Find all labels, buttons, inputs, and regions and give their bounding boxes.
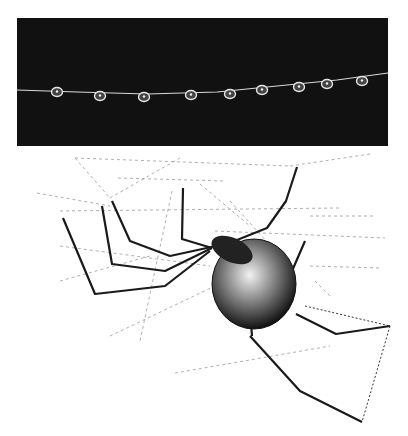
droplet-highlight [326, 82, 328, 84]
droplet-highlight [261, 88, 263, 90]
droplet-highlight [298, 85, 300, 87]
dew-droplet-photo [17, 18, 388, 146]
droplet-highlight [143, 95, 145, 97]
droplet-highlight [56, 90, 58, 92]
droplet-highlight [190, 93, 192, 95]
thread-with-droplets [17, 18, 388, 146]
droplet-highlight [361, 79, 363, 81]
droplet-highlight [229, 92, 231, 94]
droplet-highlight [99, 94, 101, 96]
web-strands [37, 154, 385, 373]
capture-thread [305, 306, 390, 422]
droplet-group [52, 77, 368, 102]
spider-drawing [0, 146, 408, 436]
spider-web-illustration [0, 146, 408, 436]
